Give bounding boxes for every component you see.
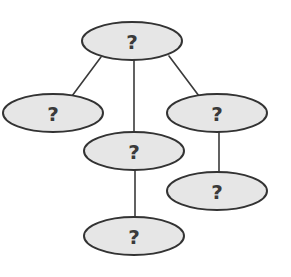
node-right-label: ? xyxy=(211,102,223,126)
node-middle-label: ? xyxy=(128,140,140,164)
node-middle: ? xyxy=(84,132,184,170)
node-right-child-label: ? xyxy=(211,180,223,204)
node-bottom-label: ? xyxy=(128,225,140,249)
node-root: ? xyxy=(82,22,182,60)
node-root-label: ? xyxy=(126,30,138,54)
node-bottom: ? xyxy=(84,217,184,255)
node-right-child: ? xyxy=(167,172,267,210)
node-right: ? xyxy=(167,94,267,132)
node-left-label: ? xyxy=(47,102,59,126)
edge-root-left xyxy=(72,57,101,96)
node-left: ? xyxy=(3,94,103,132)
edge-root-right xyxy=(169,56,199,96)
tree-diagram: ? ? ? ? ? ? xyxy=(0,0,291,277)
